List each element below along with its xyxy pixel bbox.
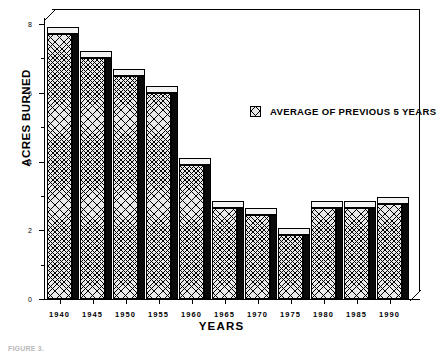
bar-front-face [377, 204, 402, 299]
bar-side-face [72, 34, 79, 299]
x-tick [291, 299, 292, 304]
x-tick [357, 299, 358, 304]
bar-front-face [146, 93, 171, 299]
bar-1940 [47, 27, 79, 299]
bar-side-face [303, 235, 310, 299]
x-tick [93, 299, 94, 304]
bar-top-face [377, 197, 409, 204]
bar-side-face [270, 215, 277, 299]
plot-frame-top [52, 9, 420, 10]
bar-side-face [336, 208, 343, 299]
bar-top-face [245, 208, 277, 215]
bar-top-face [113, 69, 145, 76]
bar-front-face [212, 208, 237, 299]
x-tick [324, 299, 325, 304]
bar-1985 [344, 201, 376, 299]
y-tick-minor [41, 196, 44, 197]
x-axis-line [44, 299, 420, 300]
y-tick-label: 0 [28, 296, 32, 303]
y-tick-8: 8 [39, 24, 44, 25]
x-tick-label-1940: 1940 [49, 310, 70, 319]
x-tick-label-1950: 1950 [115, 310, 136, 319]
y-tick-label: 4 [28, 158, 32, 165]
bar-1990 [377, 197, 409, 299]
x-tick-label-1945: 1945 [82, 310, 103, 319]
bar-front-face [245, 215, 270, 299]
bar-top-face [146, 86, 178, 93]
y-tick-2: 2 [39, 230, 44, 231]
x-tick-label-1960: 1960 [181, 310, 202, 319]
x-tick [60, 299, 61, 304]
plot-frame-corner-bottom-right [410, 290, 422, 302]
plot-area: 02468 1940194519501955196019651970197519… [44, 18, 420, 300]
x-tick [126, 299, 127, 304]
x-tick-label-1985: 1985 [346, 310, 367, 319]
bar-1980 [311, 201, 343, 299]
x-tick-label-1965: 1965 [214, 310, 235, 319]
y-tick-minor [41, 265, 44, 266]
y-tick-minor [41, 58, 44, 59]
x-tick-label-1955: 1955 [148, 310, 169, 319]
x-tick [159, 299, 160, 304]
y-tick-6: 6 [39, 93, 44, 94]
bar-front-face [311, 208, 336, 299]
bar-side-face [369, 208, 376, 299]
bar-top-face [80, 51, 112, 58]
bar-front-face [80, 58, 105, 299]
bar-top-face [344, 201, 376, 208]
figure-container: ACRES BURNED 02468 194019451950195519601… [0, 0, 443, 355]
plot-frame-right [419, 9, 420, 291]
legend-label: AVERAGE OF PREVIOUS 5 YEARS [270, 106, 436, 117]
bar-1970 [245, 208, 277, 299]
bar-front-face [179, 165, 204, 299]
bar-side-face [402, 204, 409, 299]
x-tick [225, 299, 226, 304]
bar-1960 [179, 158, 211, 299]
bar-front-face [47, 34, 72, 299]
bar-side-face [204, 165, 211, 299]
x-axis-title: YEARS [0, 320, 443, 332]
bar-top-face [47, 27, 79, 34]
x-tick [258, 299, 259, 304]
bar-front-face [113, 76, 138, 299]
y-tick-minor [41, 127, 44, 128]
x-tick [192, 299, 193, 304]
bar-side-face [237, 208, 244, 299]
bar-1945 [80, 51, 112, 299]
y-tick-label: 6 [28, 89, 32, 96]
bar-front-face [278, 235, 303, 299]
y-tick-label: 8 [28, 21, 32, 28]
x-tick-label-1975: 1975 [280, 310, 301, 319]
y-axis-title: ACRES BURNED [20, 48, 32, 188]
x-tick-label-1990: 1990 [379, 310, 400, 319]
y-axis-line [44, 18, 45, 300]
figure-caption: FIGURE 3. [8, 345, 308, 355]
bar-1975 [278, 228, 310, 299]
bar-top-face [278, 228, 310, 235]
legend-swatch-icon [250, 106, 261, 117]
bar-side-face [105, 58, 112, 299]
bar-1950 [113, 69, 145, 299]
y-tick-label: 2 [28, 227, 32, 234]
bar-top-face [179, 158, 211, 165]
bar-1965 [212, 201, 244, 299]
y-tick-0: 0 [39, 299, 44, 300]
bar-top-face [311, 201, 343, 208]
bar-top-face [212, 201, 244, 208]
plot-frame-corner-top-left [44, 9, 56, 21]
chart-legend: AVERAGE OF PREVIOUS 5 YEARS [250, 106, 436, 117]
bar-side-face [171, 93, 178, 299]
bar-side-face [138, 76, 145, 299]
bar-1955 [146, 86, 178, 299]
y-tick-4: 4 [39, 162, 44, 163]
x-tick [390, 299, 391, 304]
x-tick-label-1970: 1970 [247, 310, 268, 319]
x-tick-label-1980: 1980 [313, 310, 334, 319]
bar-front-face [344, 208, 369, 299]
